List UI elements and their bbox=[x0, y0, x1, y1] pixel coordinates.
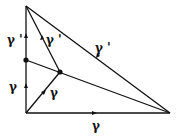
arrow-bottom-icon bbox=[92, 111, 97, 115]
arrow-up-icon bbox=[24, 83, 28, 88]
edge-hypotenuse bbox=[26, 6, 170, 113]
vertex-left-mid-dot bbox=[23, 57, 28, 62]
label-gamma-prime: γ ' bbox=[95, 41, 111, 55]
label-gamma-prime: γ ' bbox=[46, 33, 62, 47]
label-gamma-prime: γ ' bbox=[7, 33, 23, 47]
diagram-svg: γ ' γ ' γ ' γ γ γ bbox=[0, 0, 181, 136]
vertex-interior-dot bbox=[57, 69, 62, 74]
geometry-diagram: γ ' γ ' γ ' γ γ γ bbox=[0, 0, 181, 136]
label-gamma: γ bbox=[9, 80, 17, 94]
label-gamma: γ bbox=[92, 119, 100, 133]
label-gamma: γ bbox=[50, 86, 58, 100]
arrow-up-icon bbox=[24, 33, 28, 38]
